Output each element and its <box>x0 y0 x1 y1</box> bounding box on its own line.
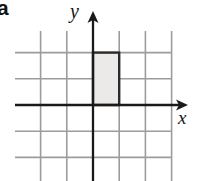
coordinate-plot <box>0 0 198 181</box>
x-axis-label: x <box>178 108 186 127</box>
figure-container: a y x <box>0 0 198 181</box>
y-axis-label: y <box>70 1 79 21</box>
shaded-rectangle <box>93 53 119 105</box>
